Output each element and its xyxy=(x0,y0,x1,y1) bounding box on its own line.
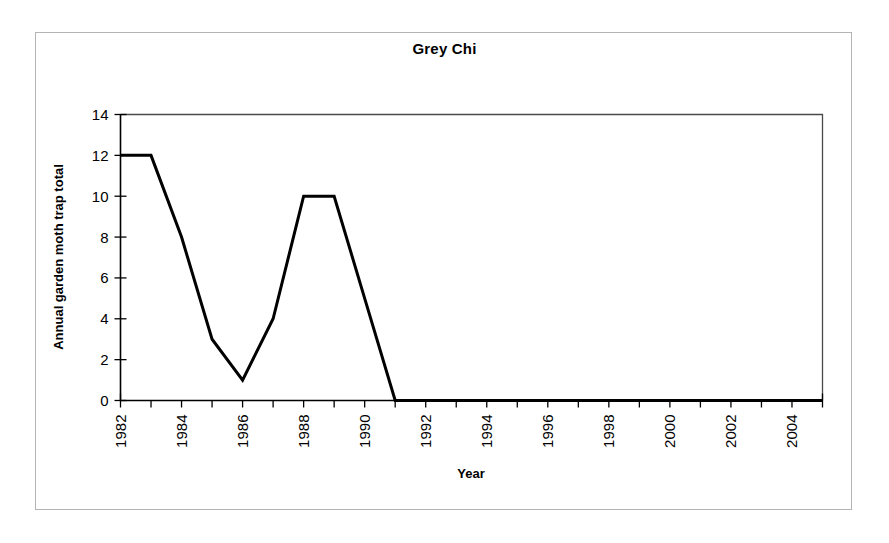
line-chart-plot: 02468101214 1982198419861988199019921994… xyxy=(0,0,889,543)
x-tick-label: 1998 xyxy=(600,415,617,448)
y-tick-label: 12 xyxy=(92,147,109,164)
x-tick-label: 1992 xyxy=(417,415,434,448)
x-tick-label: 1982 xyxy=(112,415,129,448)
data-series-group xyxy=(121,155,823,400)
y-tick-label: 10 xyxy=(92,188,109,205)
x-tick-label: 2000 xyxy=(661,415,678,448)
y-tick-label: 4 xyxy=(100,310,108,327)
x-tick-label: 1996 xyxy=(539,415,556,448)
x-tick-label: 1988 xyxy=(295,415,312,448)
series-line-grey-chi xyxy=(121,155,823,400)
x-axis-title: Year xyxy=(120,466,822,481)
x-tick-label: 1984 xyxy=(173,415,190,448)
x-tick-label: 2004 xyxy=(783,415,800,448)
y-axis-title: Annual garden moth trap total xyxy=(48,114,70,400)
y-tick-label: 6 xyxy=(100,269,108,286)
y-tick-label: 8 xyxy=(100,229,108,246)
y-tick-label: 2 xyxy=(100,351,108,368)
y-tick-label: 0 xyxy=(100,392,108,409)
x-tick-label: 1990 xyxy=(356,415,373,448)
y-tick-label: 14 xyxy=(92,106,109,123)
x-tick-label: 2002 xyxy=(722,415,739,448)
x-tick-label: 1994 xyxy=(478,415,495,448)
x-tick-label: 1986 xyxy=(234,415,251,448)
